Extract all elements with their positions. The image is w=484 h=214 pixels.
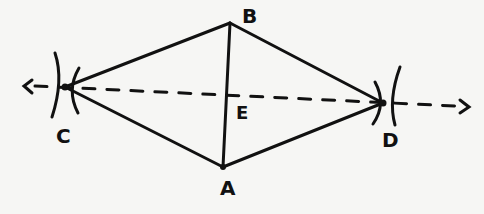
geometry-diagram: B C D E A — [0, 0, 484, 214]
label-e: E — [236, 104, 248, 122]
arrow-left-icon — [24, 80, 32, 93]
label-b: B — [242, 6, 257, 26]
point-a-dot — [220, 164, 226, 170]
label-c: C — [56, 126, 71, 146]
arc-mark-c-2 — [72, 68, 79, 113]
label-d: D — [382, 130, 399, 150]
arrow-right-icon — [460, 100, 469, 113]
label-a: A — [220, 178, 235, 198]
point-c-dot — [62, 84, 69, 91]
segment-cb — [65, 23, 230, 87]
segment-ac — [65, 87, 223, 167]
arc-mark-c-1 — [52, 53, 59, 117]
segment-bd — [230, 23, 383, 103]
point-d-dot — [380, 100, 387, 107]
arc-mark-d-1 — [392, 67, 400, 125]
